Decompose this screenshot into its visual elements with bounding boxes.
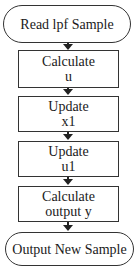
arrowhead-icon [63,89,73,95]
start-terminal: Read lpf Sample [3,5,131,43]
end-terminal: Output New Sample [5,232,134,266]
step-line1: Update [48,144,88,159]
step-calculate-output: Calculate output y [18,186,119,222]
step-line1: Update [48,99,88,114]
step-line2: u [65,69,72,84]
step-calculate-u: Calculate u [18,50,119,88]
step-line1: Calculate [42,189,95,204]
step-line2: x1 [62,114,76,129]
step-line1: Calculate [42,54,95,69]
step-update-x1: Update x1 [18,96,119,132]
arrowhead-icon [63,225,73,231]
arrowhead-icon [63,134,73,140]
start-label: Read lpf Sample [20,17,113,32]
step-update-u1: Update u1 [18,141,119,177]
step-line2: output y [45,204,91,219]
step-line2: u1 [62,159,76,174]
end-label: Output New Sample [12,242,126,257]
arrowhead-icon [63,179,73,185]
